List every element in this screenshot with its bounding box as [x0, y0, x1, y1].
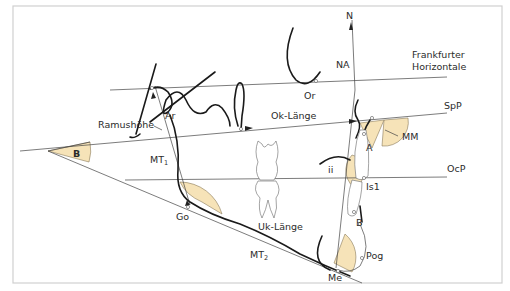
label-na: NA	[336, 59, 350, 70]
point-pog	[360, 256, 363, 259]
point-go	[186, 205, 189, 208]
point-id	[352, 210, 355, 213]
label-me: Me	[328, 272, 342, 283]
label-mt1-sub: 1	[164, 159, 168, 167]
label-is1: Is1	[366, 181, 380, 192]
label-go: Go	[176, 211, 189, 222]
condyle-line	[150, 72, 215, 122]
label-ii: ii	[328, 164, 333, 175]
label-pog: Pog	[366, 250, 383, 261]
point-ar	[150, 86, 153, 89]
label-mt2: MT2	[250, 249, 268, 262]
pterygoid-loop	[234, 83, 244, 130]
ramus-tip	[130, 134, 140, 138]
label-uk-laenge: Uk-Länge	[258, 221, 303, 232]
nasion-line	[352, 20, 355, 90]
skull-base-contour	[150, 87, 230, 126]
point-or	[314, 79, 317, 82]
palate-contour	[320, 157, 350, 164]
label-b-angle: B	[73, 148, 80, 159]
label-ar: Ar	[165, 110, 175, 121]
label-b-point: B	[356, 217, 363, 228]
label-or: Or	[304, 90, 315, 101]
label-frankfurter: Frankfurter	[412, 49, 465, 60]
label-a: A	[366, 142, 373, 153]
mt2-line	[48, 151, 362, 283]
label-ocp: OcP	[447, 163, 466, 174]
ramushoehe-leader	[154, 126, 162, 130]
point-pns	[239, 127, 242, 130]
label-mt1-main: MT	[150, 154, 164, 165]
orbit-contour	[287, 28, 320, 84]
arrow-ok-laenge-right-icon	[349, 119, 357, 124]
label-mt2-sub: 2	[264, 254, 268, 262]
upper-molar	[256, 141, 278, 180]
label-mm: MM	[402, 131, 418, 142]
point-ans	[370, 116, 373, 119]
cephalometric-diagram: N NA Or Frankfurter Horizontale SpP Ok-L…	[0, 0, 510, 291]
ocp-line	[125, 177, 447, 180]
label-horizontale: Horizontale	[412, 61, 467, 72]
label-ok-laenge: Ok-Länge	[271, 110, 317, 121]
label-ramushoehe: Ramushöhe	[98, 119, 154, 130]
label-n: N	[346, 10, 353, 21]
lower-molar	[255, 181, 279, 218]
arrow-ramus-icon	[151, 92, 156, 99]
label-mt1: MT1	[150, 154, 168, 167]
point-is1	[362, 176, 365, 179]
point-a	[362, 132, 365, 135]
label-mt2-main: MT	[250, 249, 264, 260]
label-spp: SpP	[444, 100, 462, 111]
